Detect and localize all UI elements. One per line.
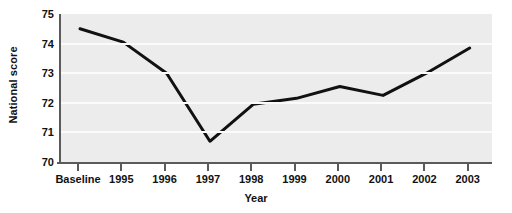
x-tick-baseline <box>77 164 79 171</box>
x-tick-label-2003: 2003 <box>455 173 479 185</box>
x-tick-1997 <box>207 164 209 171</box>
plot-area <box>59 14 492 162</box>
x-tick-label-1996: 1996 <box>152 173 176 185</box>
x-tick-2002 <box>423 164 425 171</box>
x-tick-label-1998: 1998 <box>239 173 263 185</box>
chart-figure: National score 707172737475 Baseline1995… <box>0 0 512 213</box>
y-axis-title: National score <box>0 0 26 170</box>
x-axis-title: Year <box>0 192 512 204</box>
y-axis-tick-labels: 707172737475 <box>26 0 57 175</box>
y-tick-label-75: 75 <box>42 8 54 20</box>
line-series-svg <box>61 14 492 162</box>
gridline-y-73 <box>61 72 492 74</box>
x-tick-label-2001: 2001 <box>369 173 393 185</box>
gridline-y-72 <box>61 102 492 104</box>
gridline-y-71 <box>61 131 492 133</box>
y-tick-label-71: 71 <box>42 126 54 138</box>
x-tick-1995 <box>120 164 122 171</box>
x-tick-label-baseline: Baseline <box>55 173 100 185</box>
x-tick-2003 <box>467 164 469 171</box>
y-tick-label-70: 70 <box>42 156 54 168</box>
x-tick-label-2000: 2000 <box>326 173 350 185</box>
y-tick-label-74: 74 <box>42 38 54 50</box>
x-tick-label-2002: 2002 <box>412 173 436 185</box>
y-tick-label-72: 72 <box>42 97 54 109</box>
x-tick-1999 <box>294 164 296 171</box>
x-tick-label-1997: 1997 <box>196 173 220 185</box>
x-tick-1998 <box>250 164 252 171</box>
y-axis-title-text: National score <box>7 46 19 123</box>
x-tick-2001 <box>380 164 382 171</box>
x-tick-1996 <box>164 164 166 171</box>
x-tick-label-1999: 1999 <box>282 173 306 185</box>
y-tick-label-73: 73 <box>42 67 54 79</box>
x-tick-2000 <box>337 164 339 171</box>
gridline-y-74 <box>61 43 492 45</box>
x-axis-title-text: Year <box>244 192 267 204</box>
x-tick-label-1995: 1995 <box>109 173 133 185</box>
line-series-national-score <box>80 29 470 141</box>
